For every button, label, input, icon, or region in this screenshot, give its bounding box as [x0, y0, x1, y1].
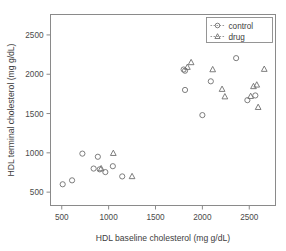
data-point-control	[120, 174, 125, 179]
data-point-control	[234, 56, 239, 61]
y-axis-title: HDL terminal cholesterol (mg g/dL)	[6, 43, 16, 176]
data-point-control	[95, 154, 100, 159]
chart-canvas: 50010001500200025005001000150020002500 c…	[0, 0, 286, 251]
scatter-plot-figure: 50010001500200025005001000150020002500 c…	[0, 0, 286, 251]
y-tick-label: 2000	[25, 70, 44, 79]
data-points	[60, 33, 267, 187]
data-point-drug	[188, 59, 194, 64]
x-tick-label: 2500	[240, 213, 259, 222]
y-tick-label: 1500	[25, 110, 44, 119]
legend-label-control: control	[229, 22, 254, 31]
x-tick-label: 500	[55, 213, 69, 222]
data-point-drug	[254, 82, 260, 87]
data-point-drug	[210, 66, 216, 71]
data-point-control	[80, 151, 85, 156]
x-tick-label: 2000	[193, 213, 212, 222]
data-point-drug	[261, 66, 267, 71]
y-tick-label: 2500	[25, 31, 44, 40]
data-point-control	[182, 87, 187, 92]
data-point-drug	[219, 86, 225, 91]
data-point-control	[60, 182, 65, 187]
legend-label-drug: drug	[229, 33, 246, 42]
y-tick-label: 500	[30, 188, 44, 197]
chart-legend: controldrug	[207, 18, 273, 43]
y-tick-label: 1000	[25, 149, 44, 158]
data-point-drug	[98, 165, 104, 170]
data-point-drug	[110, 150, 116, 155]
data-point-drug	[222, 94, 228, 99]
data-point-drug	[129, 173, 135, 178]
data-point-control	[253, 93, 258, 98]
x-tick-label: 1000	[100, 213, 119, 222]
data-point-control	[200, 113, 205, 118]
plot-frame	[51, 15, 276, 206]
axes: 50010001500200025005001000150020002500	[25, 15, 275, 222]
data-point-control	[69, 178, 74, 183]
data-point-control	[208, 79, 213, 84]
data-point-drug	[255, 104, 261, 109]
x-tick-label: 1500	[146, 213, 165, 222]
data-point-control	[91, 166, 96, 171]
data-point-control	[110, 164, 115, 169]
x-axis-title: HDL baseline cholesterol (mg g/dL)	[96, 233, 231, 243]
